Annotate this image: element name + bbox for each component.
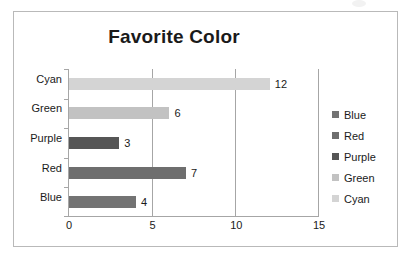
chart-title: Favorite Color [14, 26, 334, 48]
legend-label-blue: Blue [344, 109, 366, 121]
legend-item-red[interactable]: Red [332, 125, 398, 146]
bar-purple[interactable] [69, 137, 119, 149]
legend-label-red: Red [344, 130, 364, 142]
y-axis-tick [64, 158, 68, 159]
bar-cyan[interactable] [69, 78, 270, 90]
legend-swatch-icon [332, 195, 339, 202]
y-axis-label-blue: Blue [8, 191, 62, 203]
bar-blue[interactable] [69, 196, 136, 208]
bar-row[interactable]: 7 [69, 158, 197, 188]
bar-value-purple: 3 [124, 137, 130, 149]
y-axis-label-green: Green [8, 102, 62, 114]
legend-item-green[interactable]: Green [332, 167, 398, 188]
legend-item-purple[interactable]: Purple [332, 146, 398, 167]
y-axis-label-red: Red [8, 162, 62, 174]
bar-row[interactable]: 3 [69, 128, 130, 158]
legend-item-cyan[interactable]: Cyan [332, 188, 398, 209]
x-axis-label-5: 5 [150, 219, 156, 231]
x-axis-label-0: 0 [66, 219, 72, 231]
legend-item-blue[interactable]: Blue [332, 104, 398, 125]
y-axis-category-labels: Cyan Green Purple Red Blue [14, 69, 68, 217]
scan-artifact [352, 0, 366, 7]
x-axis-tick-labels: 0 5 10 15 [68, 219, 319, 237]
legend-label-green: Green [344, 172, 375, 184]
legend-swatch-icon [332, 132, 339, 139]
y-axis-tick [64, 187, 68, 188]
x-axis-label-10: 10 [230, 219, 242, 231]
legend-swatch-icon [332, 174, 339, 181]
legend-swatch-icon [332, 111, 339, 118]
legend-label-cyan: Cyan [344, 193, 370, 205]
bar-red[interactable] [69, 167, 186, 179]
bar-value-cyan: 12 [275, 78, 287, 90]
bar-value-red: 7 [191, 167, 197, 179]
bar-row[interactable]: 6 [69, 99, 181, 129]
bar-green[interactable] [69, 107, 169, 119]
gridline-15 [318, 69, 319, 217]
bar-row[interactable]: 12 [69, 69, 287, 99]
legend-swatch-icon [332, 153, 339, 160]
chart-legend: Blue Red Purple Green Cyan [332, 104, 398, 209]
y-axis-tick [64, 216, 68, 217]
bar-row[interactable]: 4 [69, 187, 147, 217]
y-axis-label-purple: Purple [8, 132, 62, 144]
y-axis-tick [64, 69, 68, 70]
bar-value-blue: 4 [141, 196, 147, 208]
plot-area: 12 6 3 7 4 [68, 69, 319, 217]
y-axis-label-cyan: Cyan [8, 73, 62, 85]
chart-frame: Favorite Color Cyan Green Purple Red Blu… [13, 11, 398, 247]
y-axis-tick [64, 99, 68, 100]
legend-label-purple: Purple [344, 151, 376, 163]
y-axis-tick [64, 128, 68, 129]
bar-value-green: 6 [174, 107, 180, 119]
x-axis-label-15: 15 [313, 219, 325, 231]
